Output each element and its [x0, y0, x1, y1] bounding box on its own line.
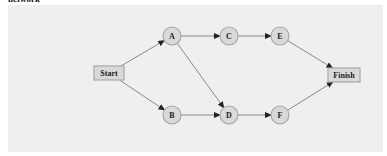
node-e: E [271, 27, 289, 45]
nodes-layer: StartABCDEFFinish [94, 27, 360, 124]
node-a: A [163, 27, 181, 45]
node-c: C [220, 27, 238, 45]
edge-start-to-b [120, 80, 165, 110]
node-label: F [278, 111, 283, 120]
edge-e-to-finish [288, 41, 333, 68]
node-label: E [277, 32, 282, 41]
edge-a-to-d [177, 43, 223, 107]
node-start: Start [94, 66, 124, 80]
edge-f-to-finish [288, 82, 333, 110]
node-label: C [226, 32, 232, 41]
node-label: B [169, 111, 175, 120]
node-finish: Finish [328, 68, 360, 82]
node-b: B [163, 106, 181, 124]
node-label: A [169, 32, 175, 41]
activity-network-diagram: StartABCDEFFinish [0, 0, 387, 156]
edge-start-to-a [121, 41, 164, 66]
node-f: F [271, 106, 289, 124]
node-label: Start [100, 69, 118, 78]
node-d: D [220, 106, 238, 124]
node-label: D [226, 111, 232, 120]
edges-layer [120, 36, 333, 115]
node-label: Finish [333, 71, 355, 80]
